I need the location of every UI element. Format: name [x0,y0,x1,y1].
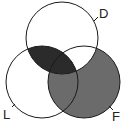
label-d: D [99,6,108,21]
tick-d [94,17,98,21]
venn-diagram: D L F [0,0,124,125]
label-l: L [3,107,10,122]
label-f: F [112,109,120,124]
